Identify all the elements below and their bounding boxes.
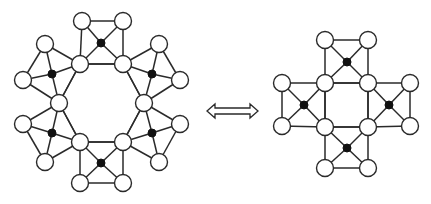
double-arrow-icon [207, 104, 258, 118]
open-vertex [172, 116, 189, 133]
open-vertex [115, 175, 132, 192]
open-vertex [172, 72, 189, 89]
open-vertex [317, 160, 334, 177]
open-vertex [136, 95, 153, 112]
open-vertex [74, 13, 91, 30]
diagram-canvas [0, 0, 431, 204]
open-vertex [317, 32, 334, 49]
open-vertex [402, 118, 419, 135]
filled-vertex [385, 101, 393, 109]
filled-vertex [97, 159, 105, 167]
filled-vertex [343, 58, 351, 66]
filled-vertex [300, 101, 308, 109]
open-vertex [72, 134, 89, 151]
open-vertex [360, 32, 377, 49]
open-vertex [274, 118, 291, 135]
open-vertex [37, 154, 54, 171]
left-graph-nodes [15, 13, 189, 192]
open-vertex [72, 175, 89, 192]
open-vertex [360, 119, 377, 136]
filled-vertex [148, 70, 156, 78]
open-vertex [115, 56, 132, 73]
open-vertex [360, 160, 377, 177]
filled-vertex [48, 129, 56, 137]
equivalence-arrow [207, 104, 258, 118]
open-vertex [274, 75, 291, 92]
open-vertex [151, 36, 168, 53]
open-vertex [15, 116, 32, 133]
right-graph-nodes [274, 32, 419, 177]
open-vertex [115, 134, 132, 151]
open-vertex [72, 56, 89, 73]
open-vertex [317, 119, 334, 136]
open-vertex [37, 36, 54, 53]
open-vertex [51, 95, 68, 112]
filled-vertex [97, 39, 105, 47]
filled-vertex [343, 144, 351, 152]
open-vertex [115, 13, 132, 30]
open-vertex [317, 75, 334, 92]
open-vertex [151, 154, 168, 171]
open-vertex [360, 75, 377, 92]
open-vertex [402, 75, 419, 92]
open-vertex [15, 72, 32, 89]
filled-vertex [48, 70, 56, 78]
filled-vertex [148, 129, 156, 137]
